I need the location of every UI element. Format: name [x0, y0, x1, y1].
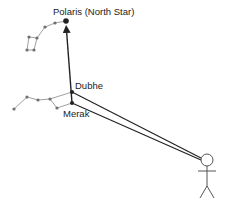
- star-icon: [43, 25, 46, 28]
- polaris-star-icon: [63, 18, 69, 24]
- sight-line-dubhe: [72, 92, 201, 158]
- polaris-label: Polaris (North Star): [53, 6, 134, 17]
- star-icon: [53, 21, 56, 24]
- observer-stick-figure-icon: [198, 154, 216, 198]
- star-icon: [36, 98, 39, 101]
- star-icon: [55, 106, 58, 109]
- dubhe-star-icon: [70, 90, 74, 94]
- star-icon: [25, 48, 28, 51]
- pointer-stars-diagram: Polaris (North Star) Dubhe Merak: [0, 0, 226, 209]
- dubhe-label: Dubhe: [75, 80, 103, 91]
- star-icon: [27, 35, 30, 38]
- merak-label: Merak: [63, 108, 90, 119]
- star-icon: [32, 48, 35, 51]
- sight-line-merak: [72, 103, 201, 160]
- little-dipper-constellation: [25, 21, 66, 52]
- star-icon: [25, 95, 28, 98]
- star-icon: [35, 36, 38, 39]
- star-icon: [48, 97, 51, 100]
- star-icon: [12, 107, 15, 110]
- merak-star-icon: [70, 101, 74, 105]
